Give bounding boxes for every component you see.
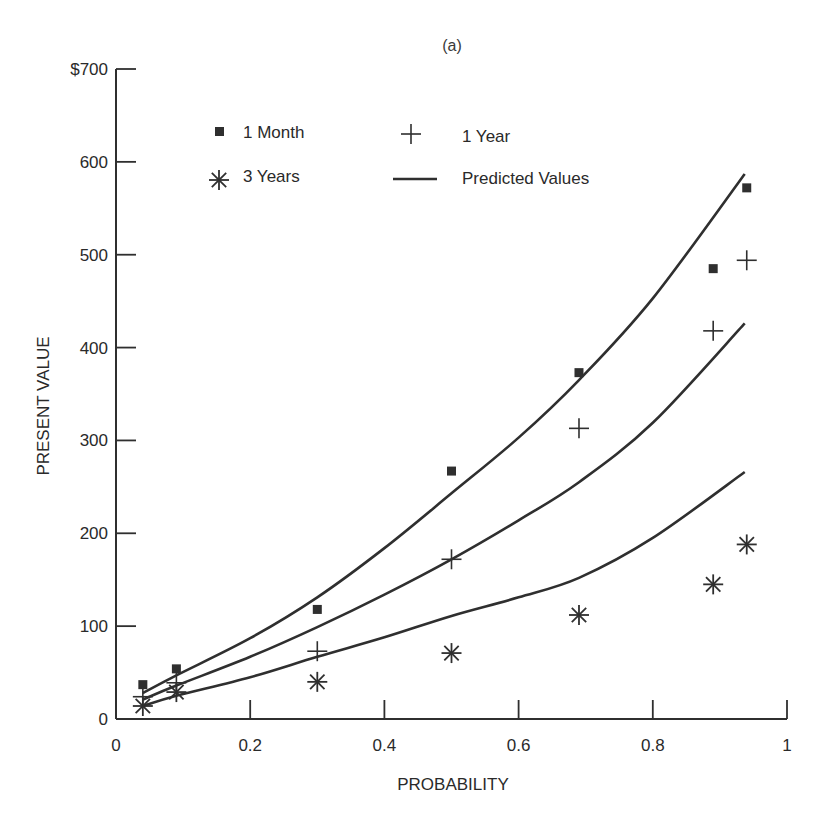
- x-tick-label: 0.6: [507, 736, 531, 755]
- square-marker-icon: [447, 467, 456, 476]
- y-tick-label: 100: [80, 617, 108, 636]
- y-tick-label: 500: [80, 246, 108, 265]
- square-marker-icon: [574, 368, 583, 377]
- asterisk-marker-icon: [166, 682, 186, 702]
- predicted-curve: [143, 323, 745, 699]
- legend-item-1-month: 1 Month: [215, 123, 304, 142]
- square-marker-icon: [742, 183, 751, 192]
- legend: 1 Month 1 Year 3 Years Predicted Values: [209, 123, 589, 190]
- x-tick-label: 0.2: [238, 736, 262, 755]
- legend-item-3-years: 3 Years: [209, 167, 300, 190]
- y-tick-label: 200: [80, 524, 108, 543]
- x-tick-label: 0: [111, 736, 120, 755]
- plus-marker-icon: [401, 124, 421, 144]
- x-axis-ticks: 00.20.40.60.81: [111, 700, 791, 755]
- x-tick-label: 1: [782, 736, 791, 755]
- chart: (a) 00.20.40.60.81 0100200300400500600$7…: [0, 0, 820, 816]
- plus-marker-icon: [737, 250, 757, 270]
- asterisk-marker-icon: [569, 605, 589, 625]
- plus-marker-icon: [569, 418, 589, 438]
- x-axis-title: PROBABILITY: [397, 775, 508, 794]
- square-marker-icon: [709, 264, 718, 273]
- asterisk-marker-icon: [133, 696, 153, 716]
- y-tick-label: $700: [70, 60, 108, 79]
- y-tick-label: 300: [80, 431, 108, 450]
- y-axis-title: PRESENT VALUE: [34, 336, 53, 475]
- asterisk-marker-icon: [307, 672, 327, 692]
- x-tick-label: 0.8: [641, 736, 665, 755]
- square-marker-icon: [172, 664, 181, 673]
- asterisk-marker-icon: [737, 534, 757, 554]
- axes: [116, 69, 787, 719]
- square-marker-icon: [215, 127, 224, 136]
- legend-label: Predicted Values: [462, 169, 589, 188]
- legend-label: 1 Month: [243, 123, 304, 142]
- predicted-curve: [143, 174, 745, 693]
- y-tick-label: 600: [80, 153, 108, 172]
- y-axis-ticks: 0100200300400500600$700: [70, 60, 136, 729]
- x-tick-label: 0.4: [373, 736, 397, 755]
- asterisk-marker-icon: [209, 170, 229, 190]
- square-marker-icon: [313, 605, 322, 614]
- legend-item-1-year: 1 Year: [401, 124, 511, 146]
- plus-marker-icon: [703, 321, 723, 341]
- y-tick-label: 0: [99, 710, 108, 729]
- plus-marker-icon: [442, 549, 462, 569]
- y-tick-label: 400: [80, 339, 108, 358]
- asterisk-marker-icon: [703, 574, 723, 594]
- predicted-curves: [143, 174, 745, 706]
- legend-label: 1 Year: [462, 127, 511, 146]
- legend-label: 3 Years: [243, 167, 300, 186]
- legend-item-predicted-values: Predicted Values: [393, 169, 589, 188]
- asterisk-marker-icon: [442, 643, 462, 663]
- data-points: [133, 183, 757, 716]
- predicted-curve: [143, 472, 745, 706]
- chart-title: (a): [442, 37, 462, 54]
